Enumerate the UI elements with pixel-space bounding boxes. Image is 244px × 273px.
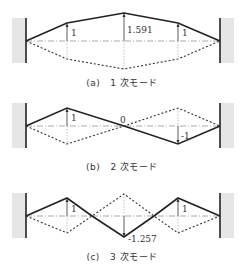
caption-label: (b) (86, 162, 100, 172)
label-center: 1.591 (127, 25, 153, 35)
caption-label: (c) (86, 252, 99, 262)
right-wall (220, 103, 234, 148)
caption-text: 2 次モード (110, 162, 158, 172)
panel-c: 1 -1.257 1 (12, 193, 234, 244)
right-wall (220, 193, 234, 238)
caption-b: (b) 2 次モード (0, 160, 244, 173)
label-left: 1 (71, 204, 77, 214)
label-right: -1 (181, 131, 190, 141)
caption-text: 3 次モード (110, 252, 158, 262)
mode-shape-dotted (26, 194, 220, 233)
panel-a: 1 1.591 1 (12, 13, 234, 69)
label-center: -1.257 (128, 234, 157, 244)
caption-a: (a) 1 次モード (0, 76, 244, 89)
panel-b: 1 0 -1 (12, 103, 234, 148)
mode-shape-dotted (26, 41, 220, 69)
caption-text: 1 次モード (110, 78, 158, 88)
label-right: 1 (182, 28, 188, 38)
label-left: 1 (71, 113, 77, 123)
left-wall (12, 103, 26, 148)
label-center: 0 (120, 115, 126, 125)
label-left: 1 (71, 28, 77, 38)
mode-shape-solid (26, 108, 220, 144)
label-right: 1 (182, 204, 188, 214)
right-wall (220, 18, 234, 63)
mode-shape-solid (26, 198, 220, 237)
vibration-modes-diagram: 1 1.591 1 1 0 -1 (0, 0, 244, 273)
mode-shape-solid (26, 13, 220, 41)
caption-c: (c) 3 次モード (0, 250, 244, 263)
left-wall (12, 18, 26, 63)
left-wall (12, 193, 26, 238)
caption-label: (a) (86, 78, 100, 88)
